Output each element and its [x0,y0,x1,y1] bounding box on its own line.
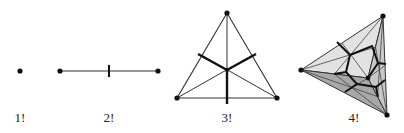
panel-triangle [174,10,279,104]
thick-spoke [227,54,256,70]
label-3: 3! [222,110,233,126]
panel-tetrahedron [298,13,389,117]
vertex [174,95,179,100]
vertex [298,67,303,72]
label-1: 1! [15,110,26,126]
vertex [17,68,22,73]
permutohedra-diagram [0,0,404,133]
centroid [225,68,229,72]
panel-point [17,68,22,73]
panel-segment [57,65,160,77]
thick-edge [378,63,386,64]
vertex [155,68,160,73]
label-4: 4! [349,110,360,126]
vertex [384,112,389,117]
thick-spoke [198,54,227,70]
vertex [274,95,279,100]
vertex [380,13,385,18]
vertex [57,68,62,73]
label-2: 2! [104,110,115,126]
vertex [366,76,371,81]
vertex [224,10,229,15]
